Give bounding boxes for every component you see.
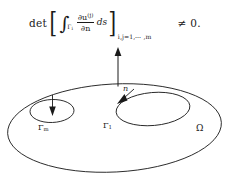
integral-subscript-index: i (71, 26, 72, 31)
numerator-superscript: (j) (87, 12, 93, 18)
det-label: det (29, 18, 47, 29)
partial-derivative-fraction: ∂u(j) ∂n (77, 12, 94, 33)
gamma-1-label: Γ1 (103, 122, 112, 131)
diagram-svg (0, 36, 230, 177)
determinant-formula: det [ ∫ Γi ∂u(j) ∂n ds ] i,j=1,⋯ ,m ≠ 0. (0, 6, 230, 40)
numerator-partial-u: ∂u (78, 13, 87, 22)
gamma-m-sub: m (44, 126, 49, 132)
fraction-numerator: ∂u(j) (77, 12, 94, 22)
gamma-m-pointer-arrow (49, 95, 56, 116)
gamma-m-label: Γm (38, 124, 49, 133)
differential-ds: ds (97, 18, 107, 27)
omega-region-label: Ω (196, 124, 203, 133)
gamma-1-sub: 1 (109, 124, 112, 130)
not-equal-zero: ≠ 0. (178, 18, 201, 29)
integral-group: ∫ Γi (59, 16, 75, 31)
normal-vector-label: n (123, 85, 128, 93)
integral-subscript: Γi (67, 24, 73, 32)
normal-vector-arrow (115, 47, 122, 87)
inner-boundary-right-ellipse (115, 89, 192, 128)
fraction-denominator: ∂n (80, 24, 91, 33)
formula-expression: det [ ∫ Γi ∂u(j) ∂n ds ] i,j=1,⋯ ,m ≠ 0. (29, 13, 201, 34)
domain-diagram: n Γm Γ1 Ω Γ0 (0, 36, 230, 177)
figure-canvas: det [ ∫ Γi ∂u(j) ∂n ds ] i,j=1,⋯ ,m ≠ 0. (0, 0, 230, 177)
